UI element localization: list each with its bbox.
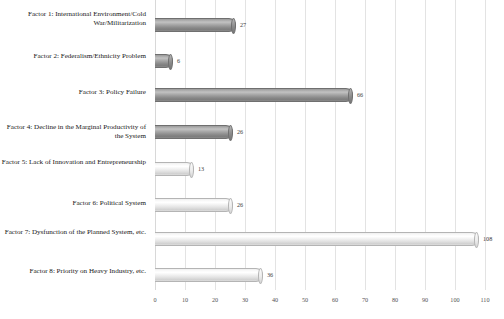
x-axis: 0 10 20 30 40 50 60 70 80 90 100 110 (155, 290, 489, 319)
category-label: Factor 3: Policy Failure (0, 88, 146, 97)
bar-cap-icon (228, 125, 233, 141)
gridline-20 (215, 0, 216, 290)
bar-factor-4 (155, 125, 233, 139)
gridline-0 (155, 0, 156, 290)
bar-value-label: 36 (267, 271, 273, 279)
x-tick-label: 20 (212, 296, 218, 304)
gridline-10 (185, 0, 186, 290)
gridline-80 (395, 0, 396, 290)
bar-cap-icon (348, 88, 353, 104)
bar-factor-6 (155, 198, 233, 212)
gridline-110 (485, 0, 486, 290)
category-label: Factor 1: International Environment/Cold… (0, 10, 146, 28)
gridline-50 (305, 0, 306, 290)
category-label: Factor 8: Priority on Heavy Industry, et… (0, 267, 146, 276)
bar-value-label: 26 (237, 128, 243, 136)
x-tick-label: 90 (422, 296, 428, 304)
gridline-100 (455, 0, 456, 290)
bar-factor-8 (155, 268, 263, 282)
x-tick-label: 50 (302, 296, 308, 304)
bar-factor-2 (155, 54, 173, 68)
bar-cap-icon (231, 18, 236, 34)
gridline-90 (425, 0, 426, 290)
category-label: Factor 6: Political System (0, 199, 146, 208)
bar-value-label: 13 (198, 165, 204, 173)
bar-factor-3 (155, 88, 353, 102)
bar-cap-icon (258, 268, 263, 284)
category-label: Factor 5: Lack of Innovation and Entrepr… (0, 158, 146, 167)
bar-value-label: 66 (357, 91, 363, 99)
gridline-40 (275, 0, 276, 290)
bar-value-label: 26 (237, 201, 243, 209)
x-tick-label: 40 (272, 296, 278, 304)
plot-area: 27 6 66 26 13 (155, 0, 489, 290)
bar-value-label: 6 (177, 57, 180, 65)
gridline-70 (365, 0, 366, 290)
x-tick-label: 30 (242, 296, 248, 304)
category-label: Factor 2: Federalism/Ethnicity Problem (0, 52, 146, 61)
x-tick-label: 110 (480, 296, 489, 304)
bar-factor-5 (155, 162, 194, 176)
x-tick-label: 100 (450, 296, 459, 304)
category-label: Factor 4: Decline in the Marginal Produc… (0, 123, 146, 141)
bar-cap-icon (228, 198, 233, 214)
x-tick-label: 70 (362, 296, 368, 304)
gridline-60 (335, 0, 336, 290)
x-tick-label: 0 (153, 296, 156, 304)
x-tick-label: 10 (182, 296, 188, 304)
bar-factor-7 (155, 232, 479, 246)
x-tick-label: 60 (332, 296, 338, 304)
bar-value-label: 27 (240, 21, 246, 29)
bar-cap-icon (474, 232, 479, 248)
bar-cap-icon (189, 162, 194, 178)
bar-chart: Factor 1: International Environment/Cold… (0, 0, 504, 319)
bar-value-label: 108 (483, 235, 492, 243)
category-label-column: Factor 1: International Environment/Cold… (0, 0, 150, 290)
category-label: Factor 7: Dysfunction of the Planned Sys… (0, 228, 146, 237)
gridline-30 (245, 0, 246, 290)
bar-factor-1 (155, 18, 236, 32)
x-tick-label: 80 (392, 296, 398, 304)
bar-cap-icon (168, 54, 173, 70)
